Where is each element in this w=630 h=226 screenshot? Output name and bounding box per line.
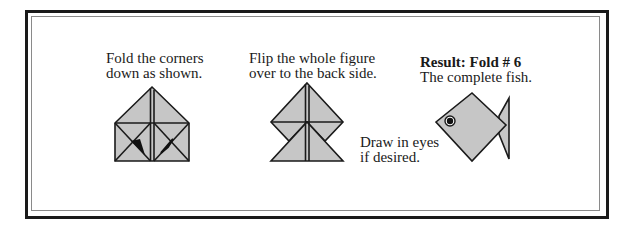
diagram-figures bbox=[0, 0, 630, 226]
figure-fish bbox=[436, 93, 509, 161]
figure-flipped bbox=[271, 83, 343, 161]
figure-fold-corners bbox=[115, 87, 189, 161]
fish-body bbox=[436, 93, 506, 161]
